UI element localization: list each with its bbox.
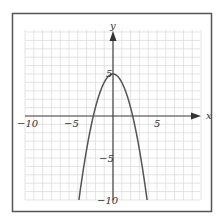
y-tick-label-5: 5: [106, 68, 112, 79]
x-tick-label-neg10: −10: [17, 118, 39, 129]
x-tick-label-5: 5: [154, 118, 160, 129]
y-axis-label: y: [109, 20, 116, 31]
x-axis-label: x: [206, 110, 212, 121]
y-tick-label-neg5: −5: [99, 153, 114, 164]
parabola-chart: x y −10 −5 5 5 −5 −10: [0, 0, 221, 223]
y-tick-label-neg10: −10: [97, 195, 119, 206]
x-tick-label-neg5: −5: [64, 118, 79, 129]
